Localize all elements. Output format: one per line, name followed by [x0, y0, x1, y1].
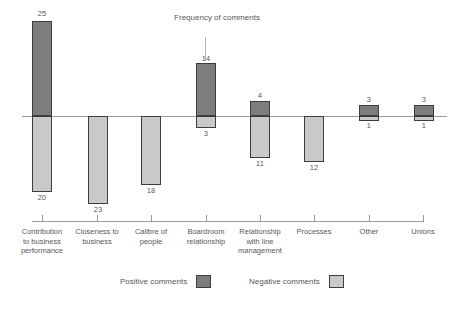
bar-chart: 25 20 23 18 14 3 4 11 — [0, 0, 460, 315]
value-label-negative: 1 — [349, 121, 389, 130]
value-label-negative: 20 — [22, 193, 62, 202]
category-label-line: with line — [232, 237, 288, 247]
category-label-line: performance — [14, 246, 70, 256]
legend-label-positive: Positive comments — [120, 277, 187, 286]
category-label-calibre: Calibre of people — [123, 227, 179, 246]
bar-negative — [88, 116, 108, 204]
category-label-line: relationship — [178, 237, 234, 247]
value-label-positive: 4 — [240, 91, 280, 100]
category-label-line: Closeness to — [69, 227, 125, 237]
bar-negative — [250, 116, 270, 158]
bar-group-line-management: 4 11 — [250, 0, 270, 222]
category-label-line: Other — [341, 227, 397, 237]
axis-tick — [369, 215, 370, 222]
legend-entry-positive: Positive comments — [120, 275, 211, 288]
bar-group-calibre: 18 — [141, 0, 161, 222]
value-label-positive: 25 — [22, 9, 62, 18]
annotation-leader-line — [205, 37, 206, 61]
category-label-line: management — [232, 246, 288, 256]
axis-tick — [260, 215, 261, 222]
bar-negative — [304, 116, 324, 162]
category-label-line: Contribution — [14, 227, 70, 237]
bar-group-contribution: 25 20 — [32, 0, 52, 222]
category-label-other: Other — [341, 227, 397, 237]
category-label-line: Calibre of — [123, 227, 179, 237]
bar-negative — [32, 116, 52, 192]
axis-tick — [314, 215, 315, 222]
category-label-line: to business — [14, 237, 70, 247]
category-label-line-management: Relationship with line management — [232, 227, 288, 256]
legend-swatch-positive — [196, 275, 211, 288]
category-label-line: Processes — [286, 227, 342, 237]
category-label-closeness: Closeness to business — [69, 227, 125, 246]
legend-label-negative: Negative comments — [249, 277, 320, 286]
axis-tick — [42, 215, 43, 222]
value-label-negative: 12 — [294, 163, 334, 172]
bar-negative — [196, 116, 216, 128]
legend-entry-negative: Negative comments — [249, 275, 344, 288]
value-label-negative: 3 — [186, 129, 226, 138]
plot-area: 25 20 23 18 14 3 4 11 — [0, 0, 460, 222]
bar-group-processes: 12 — [304, 0, 324, 222]
bar-negative — [141, 116, 161, 185]
legend-swatch-negative — [329, 275, 344, 288]
bar-positive — [196, 63, 216, 116]
category-label-unions: Unions — [395, 227, 451, 237]
axis-tick — [151, 215, 152, 222]
zero-baseline — [22, 116, 447, 117]
category-label-line: business — [69, 237, 125, 247]
value-label-negative: 23 — [78, 205, 118, 214]
category-label-line: Boardroom — [178, 227, 234, 237]
x-axis-line — [32, 221, 424, 222]
frequency-annotation: Frequency of comments — [162, 12, 272, 23]
bar-positive — [359, 105, 379, 116]
bar-group-unions: 3 1 — [414, 0, 434, 222]
value-label-positive: 3 — [349, 95, 389, 104]
axis-tick — [97, 215, 98, 222]
category-label-contribution: Contribution to business performance — [14, 227, 70, 256]
axis-tick — [423, 215, 424, 222]
value-label-negative: 18 — [131, 186, 171, 195]
value-label-negative: 11 — [240, 159, 280, 168]
bar-positive — [32, 21, 52, 116]
value-label-positive: 14 — [186, 54, 226, 63]
category-label-line: people — [123, 237, 179, 247]
value-label-positive: 3 — [404, 95, 444, 104]
bar-group-other: 3 1 — [359, 0, 379, 222]
category-label-processes: Processes — [286, 227, 342, 237]
category-label-line: Unions — [395, 227, 451, 237]
category-label-boardroom: Boardroom relationship — [178, 227, 234, 246]
value-label-negative: 1 — [404, 121, 444, 130]
bar-positive — [250, 101, 270, 116]
bar-group-closeness: 23 — [88, 0, 108, 222]
category-labels: Contribution to business performance Clo… — [0, 227, 460, 267]
chart-legend: Positive comments Negative comments — [0, 275, 460, 295]
category-label-line: Relationship — [232, 227, 288, 237]
axis-tick — [206, 215, 207, 222]
bar-group-boardroom: 14 3 — [196, 0, 216, 222]
bar-positive — [414, 105, 434, 116]
